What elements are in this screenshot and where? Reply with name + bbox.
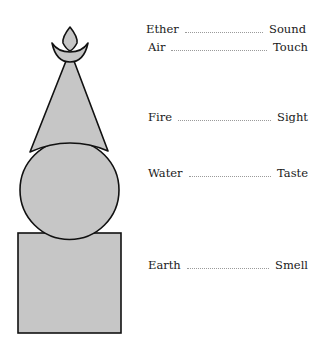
sphere-water-shape: [20, 141, 119, 240]
dotted-leader: [178, 120, 271, 121]
correspondence-row-fire: Fire Sight: [148, 108, 308, 124]
dotted-leader: [187, 268, 269, 269]
sense-label: Touch: [273, 40, 308, 54]
element-label: Water: [148, 166, 183, 180]
cone-fire-shape: [30, 61, 108, 152]
sense-label: Smell: [275, 258, 308, 272]
dotted-leader: [189, 176, 271, 177]
sense-label: Sound: [269, 22, 306, 36]
sense-label: Taste: [277, 166, 308, 180]
cube-earth-shape: [18, 233, 121, 333]
correspondence-row-water: Water Taste: [148, 164, 308, 180]
sense-label: Sight: [277, 110, 308, 124]
dotted-leader: [185, 32, 263, 33]
dotted-leader: [171, 50, 267, 51]
element-label: Air: [148, 40, 165, 54]
stupa-diagram: [0, 0, 140, 348]
correspondence-row-ether: Ether Sound: [146, 20, 306, 36]
element-label: Earth: [148, 258, 181, 272]
correspondence-row-air: Air Touch: [148, 38, 308, 54]
flame-ether-shape: [63, 27, 77, 51]
correspondence-row-earth: Earth Smell: [148, 256, 308, 272]
element-label: Fire: [148, 110, 172, 124]
element-label: Ether: [146, 22, 179, 36]
